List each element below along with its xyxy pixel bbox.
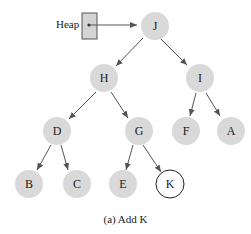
svg-text:A: A bbox=[227, 124, 236, 138]
svg-text:J: J bbox=[153, 19, 158, 33]
node-D: D bbox=[43, 117, 71, 145]
svg-text:E: E bbox=[119, 177, 126, 191]
node-G: G bbox=[125, 117, 153, 145]
svg-text:G: G bbox=[135, 124, 144, 138]
edges bbox=[37, 38, 220, 172]
heap-pointer-label: Heap bbox=[56, 18, 79, 30]
figure-caption: (a) Add K bbox=[0, 213, 251, 225]
node-J: J bbox=[141, 12, 169, 40]
svg-text:H: H bbox=[100, 71, 109, 85]
svg-text:F: F bbox=[183, 124, 190, 138]
svg-text:B: B bbox=[25, 177, 33, 191]
heap-tree-diagram: J H I D G F A B C E K bbox=[0, 0, 251, 234]
node-I: I bbox=[186, 64, 214, 92]
node-F: F bbox=[172, 117, 200, 145]
svg-text:C: C bbox=[73, 177, 81, 191]
node-C: C bbox=[63, 170, 91, 198]
svg-text:K: K bbox=[166, 177, 175, 191]
svg-text:I: I bbox=[198, 71, 202, 85]
node-K-new: K bbox=[156, 170, 184, 198]
node-A: A bbox=[217, 117, 245, 145]
node-H: H bbox=[90, 64, 118, 92]
svg-text:D: D bbox=[53, 124, 62, 138]
node-E: E bbox=[109, 170, 137, 198]
node-B: B bbox=[15, 170, 43, 198]
